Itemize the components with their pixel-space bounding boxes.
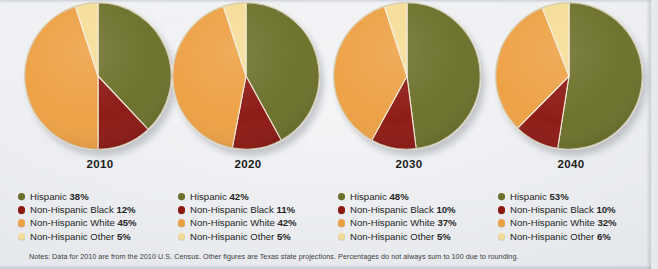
pie-year-label: 2020 <box>168 158 328 170</box>
pie-chart-2020: 2020 <box>168 2 328 188</box>
legend-label: Non-Hispanic Black 10% <box>350 203 456 216</box>
legend-label: Non-Hispanic Other 6% <box>510 230 611 243</box>
legend-swatch-icon <box>18 233 25 240</box>
legend-swatch-icon <box>178 206 185 213</box>
pie-graphic <box>333 2 481 150</box>
legend-label: Non-Hispanic White 42% <box>190 216 297 229</box>
legend-label: Non-Hispanic Other 5% <box>30 230 131 243</box>
pie-graphic <box>172 2 320 150</box>
legend-label: Non-Hispanic White 37% <box>350 216 457 229</box>
legend-item: Non-Hispanic Black 12% <box>18 203 178 216</box>
legend-item: Non-Hispanic White 45% <box>18 216 178 229</box>
legend-item: Non-Hispanic Other 5% <box>178 230 338 243</box>
legend-value: 6% <box>597 231 611 242</box>
legend-value: 10% <box>596 204 615 215</box>
legend-item: Hispanic 42% <box>178 190 338 203</box>
legend-item: Non-Hispanic White 37% <box>338 216 498 229</box>
legend-label: Hispanic 48% <box>350 190 409 203</box>
legend-value: 42% <box>229 191 248 202</box>
legend-swatch-icon <box>498 193 505 200</box>
legend-swatch-icon <box>338 193 345 200</box>
legend-label: Non-Hispanic Black 10% <box>510 203 616 216</box>
legend-swatch-icon <box>178 193 185 200</box>
legend-value: 12% <box>116 204 135 215</box>
legend-swatch-icon <box>18 193 25 200</box>
legend-value: 48% <box>389 191 408 202</box>
pie-graphic <box>24 2 172 150</box>
legend-label: Hispanic 38% <box>30 190 89 203</box>
legend-2010: Hispanic 38%Non-Hispanic Black 12%Non-Hi… <box>18 190 178 243</box>
legend-item: Hispanic 38% <box>18 190 178 203</box>
pie-wrapper <box>333 2 485 154</box>
legend-item: Non-Hispanic Black 10% <box>338 203 498 216</box>
legend-value: 5% <box>277 231 291 242</box>
legend-item: Non-Hispanic Black 11% <box>178 203 338 216</box>
pie-year-label: 2010 <box>20 158 180 170</box>
pie-chart-row: 2010202020302040 <box>0 0 651 188</box>
legend-value: 11% <box>276 204 295 215</box>
legend-value: 32% <box>597 217 616 228</box>
pie-year-label: 2030 <box>329 158 489 170</box>
legend-2020: Hispanic 42%Non-Hispanic Black 11%Non-Hi… <box>178 190 338 243</box>
figure-notes: Notes: Data for 2010 are from the 2010 U… <box>29 252 639 262</box>
legend-value: 5% <box>117 231 131 242</box>
legend-row: Hispanic 38%Non-Hispanic Black 12%Non-Hi… <box>0 190 651 246</box>
pie-wrapper <box>172 2 324 154</box>
legend-swatch-icon <box>338 206 345 213</box>
legend-label: Hispanic 53% <box>510 190 569 203</box>
legend-swatch-icon <box>178 233 185 240</box>
legend-value: 38% <box>69 191 88 202</box>
pie-chart-2010: 2010 <box>20 2 180 188</box>
legend-item: Hispanic 53% <box>498 190 658 203</box>
legend-swatch-icon <box>178 219 185 226</box>
pie-chart-2040: 2040 <box>491 2 651 188</box>
pie-chart-2030: 2030 <box>329 2 489 188</box>
legend-swatch-icon <box>498 233 505 240</box>
legend-swatch-icon <box>338 233 345 240</box>
legend-swatch-icon <box>18 206 25 213</box>
legend-item: Non-Hispanic White 32% <box>498 216 658 229</box>
legend-value: 5% <box>437 231 451 242</box>
legend-label: Non-Hispanic Other 5% <box>190 230 291 243</box>
legend-2030: Hispanic 48%Non-Hispanic Black 10%Non-Hi… <box>338 190 498 243</box>
pie-graphic <box>495 2 643 150</box>
legend-label: Non-Hispanic Black 12% <box>30 203 136 216</box>
legend-label: Non-Hispanic Black 11% <box>190 203 295 216</box>
legend-label: Hispanic 42% <box>190 190 249 203</box>
legend-swatch-icon <box>498 219 505 226</box>
legend-item: Hispanic 48% <box>338 190 498 203</box>
legend-item: Non-Hispanic Other 5% <box>338 230 498 243</box>
legend-value: 42% <box>277 217 296 228</box>
legend-label: Non-Hispanic White 45% <box>30 216 137 229</box>
legend-label: Non-Hispanic Other 5% <box>350 230 451 243</box>
legend-swatch-icon <box>498 206 505 213</box>
legend-swatch-icon <box>18 219 25 226</box>
legend-item: Non-Hispanic Other 5% <box>18 230 178 243</box>
legend-2040: Hispanic 53%Non-Hispanic Black 10%Non-Hi… <box>498 190 658 243</box>
legend-value: 45% <box>117 217 136 228</box>
pie-wrapper <box>495 2 647 154</box>
legend-label: Non-Hispanic White 32% <box>510 216 617 229</box>
legend-item: Non-Hispanic White 42% <box>178 216 338 229</box>
page-edge-bottom <box>0 265 651 269</box>
pie-year-label: 2040 <box>491 158 651 170</box>
legend-value: 37% <box>437 217 456 228</box>
legend-item: Non-Hispanic Other 6% <box>498 230 658 243</box>
legend-value: 10% <box>436 204 455 215</box>
legend-value: 53% <box>549 191 568 202</box>
legend-swatch-icon <box>338 219 345 226</box>
legend-item: Non-Hispanic Black 10% <box>498 203 658 216</box>
pie-wrapper <box>24 2 176 154</box>
